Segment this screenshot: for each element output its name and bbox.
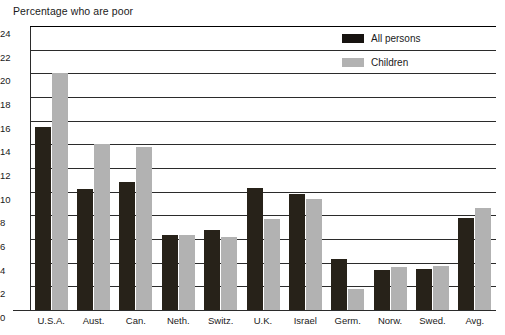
y-axis-tick-label: 16: [0, 123, 26, 134]
y-axis-tick-label: 14: [0, 146, 26, 157]
y-axis-tick-label: 10: [0, 194, 26, 205]
bar-children: [348, 289, 364, 310]
bar-all-persons: [35, 127, 51, 310]
x-axis-category-label: U.K.: [242, 315, 284, 326]
bar-children: [433, 266, 449, 310]
gridline: [30, 310, 496, 311]
legend-label-all-persons: All persons: [371, 33, 420, 44]
bar-all-persons: [289, 194, 305, 310]
bar-all-persons: [247, 188, 263, 310]
poverty-bar-chart: Percentage who are poor All persons Chil…: [0, 0, 505, 335]
bar-all-persons: [416, 269, 432, 310]
y-axis-tick-label: 12: [0, 170, 26, 181]
gridline: [30, 121, 496, 122]
y-axis-tick-label: 20: [0, 75, 26, 86]
y-axis-tick-label: 18: [0, 99, 26, 110]
bar-children: [52, 73, 68, 310]
x-axis-category-label: Aust.: [72, 315, 114, 326]
bar-children: [136, 147, 152, 310]
legend-swatch-all-persons: [342, 34, 364, 43]
legend-label-children: Children: [371, 57, 408, 68]
x-axis-category-label: Avg.: [454, 315, 496, 326]
x-axis-category-label: Germ.: [327, 315, 369, 326]
bar-all-persons: [204, 230, 220, 310]
y-axis-tick-label: 0: [0, 312, 26, 323]
legend-item-children: Children: [342, 52, 462, 72]
x-axis-category-label: Can.: [115, 315, 157, 326]
x-axis-category-label: Norw.: [369, 315, 411, 326]
bar-children: [94, 144, 110, 310]
chart-title: Percentage who are poor: [13, 5, 133, 17]
bar-all-persons: [77, 189, 93, 310]
bar-children: [306, 199, 322, 310]
bar-children: [391, 267, 407, 310]
y-axis-tick-label: 6: [0, 241, 26, 252]
y-axis-tick-label: 24: [0, 28, 26, 39]
x-axis-category-label: U.S.A.: [30, 315, 72, 326]
y-axis-tick-label: 4: [0, 265, 26, 276]
y-axis-tick-label: 8: [0, 217, 26, 228]
chart-legend: All persons Children: [342, 28, 462, 76]
bar-children: [221, 237, 237, 310]
bar-children: [179, 235, 195, 310]
legend-item-all-persons: All persons: [342, 28, 462, 48]
x-axis-category-label: Swed.: [411, 315, 453, 326]
x-axis-category-label: Israel: [284, 315, 326, 326]
legend-swatch-children: [342, 58, 364, 67]
bar-all-persons: [162, 235, 178, 310]
gridline: [30, 97, 496, 98]
y-axis-tick-label: 2: [0, 288, 26, 299]
bar-children: [264, 219, 280, 310]
bar-children: [475, 208, 491, 310]
x-axis-category-label: Neth.: [157, 315, 199, 326]
bar-all-persons: [374, 270, 390, 310]
y-axis-tick-label: 22: [0, 52, 26, 63]
bar-all-persons: [331, 259, 347, 310]
bar-all-persons: [458, 218, 474, 310]
bar-all-persons: [119, 182, 135, 310]
x-axis-category-label: Switz.: [199, 315, 241, 326]
